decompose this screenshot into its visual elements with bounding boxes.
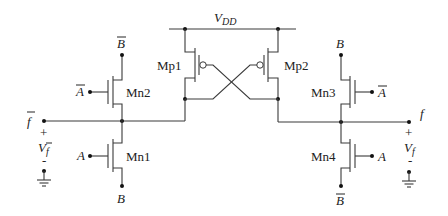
mn2-gate-label-abar: A xyxy=(75,84,84,99)
plus-right: + xyxy=(405,125,412,140)
nmos-mn4-symbol xyxy=(339,122,374,188)
mn1-label: Mn1 xyxy=(126,149,151,164)
circuit-diagram: VDD Mp1 Mp2 xyxy=(0,0,448,216)
mn4-source-label-bbar: B xyxy=(336,193,344,208)
vdd-rail xyxy=(169,27,296,31)
mn4-label: Mn4 xyxy=(311,149,336,164)
right-output-net xyxy=(278,99,411,124)
pmos-mp1-symbol xyxy=(183,29,206,101)
nmos-mn1-symbol xyxy=(88,121,124,188)
ground-left-icon xyxy=(37,169,51,186)
mn1-source-label-b: B xyxy=(117,191,125,206)
nmos-mn2-symbol xyxy=(88,53,124,121)
nmos-mn3-symbol xyxy=(339,53,374,122)
mn1-gate-label-a: A xyxy=(76,148,85,163)
minus-left: - xyxy=(42,153,46,168)
mp2-label: Mp2 xyxy=(284,58,309,73)
mn2-source-label-bbar: B xyxy=(117,36,125,51)
mn3-source-label-b: B xyxy=(336,36,344,51)
ground-right-icon xyxy=(402,170,416,187)
mn3-label: Mn3 xyxy=(311,85,336,100)
mn3-gate-label-abar: A xyxy=(377,85,386,100)
pmos-mp2-symbol xyxy=(257,29,280,101)
mp1-label: Mp1 xyxy=(157,58,182,73)
mn4-gate-label-a: A xyxy=(377,149,386,164)
output-f-label: f xyxy=(420,106,426,121)
mn2-label: Mn2 xyxy=(126,85,151,100)
minus-right: - xyxy=(408,153,412,168)
output-fbar-label: f xyxy=(27,114,33,129)
plus-left: + xyxy=(40,125,47,140)
vdd-label: VDD xyxy=(214,10,237,27)
